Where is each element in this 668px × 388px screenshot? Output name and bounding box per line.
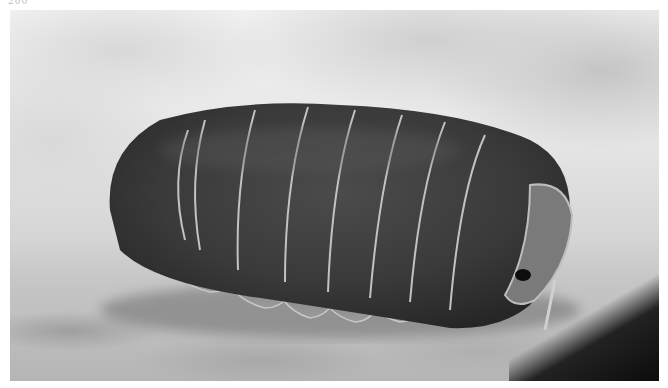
- isopod-photograph: [10, 10, 659, 381]
- isopod-illustration: [10, 10, 659, 381]
- isopod-eye: [515, 269, 531, 281]
- page-number: 200: [8, 0, 28, 6]
